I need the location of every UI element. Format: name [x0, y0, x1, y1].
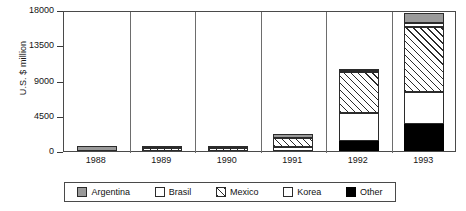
y-axis-tick-label: 13500 [0, 41, 54, 50]
bar-segment-argentina [404, 13, 444, 23]
stacked-bar [404, 13, 444, 151]
bar-segment-argentina [208, 146, 248, 148]
legend-label: Brasil [169, 187, 192, 197]
bar-segment-argentina [77, 146, 117, 151]
y-axis-title: U.S. $ million [18, 13, 28, 123]
legend-item-argentina[interactable]: Argentina [77, 187, 130, 197]
legend-swatch-icon [346, 187, 356, 197]
bar-segment-other [339, 141, 379, 151]
bar-segment-argentina [142, 146, 182, 148]
bar-segment-mexico [142, 148, 182, 151]
legend-swatch-icon [155, 187, 165, 197]
panel-separator [326, 12, 327, 153]
panel-separator [130, 12, 131, 153]
legend-label: Mexico [230, 187, 259, 197]
legend-swatch-icon [283, 187, 293, 197]
bar-segment-other [404, 124, 444, 151]
legend-label: Other [360, 187, 383, 197]
y-axis-tick-label: 18000 [0, 6, 54, 15]
legend-item-brasil[interactable]: Brasil [155, 187, 192, 197]
panel-separator [195, 12, 196, 153]
y-axis-tick [57, 152, 63, 153]
legend-label: Argentina [91, 187, 130, 197]
bar-segment-argentina [273, 134, 313, 138]
y-axis-tick-label: 4500 [0, 112, 54, 121]
chart-root: U.S. $ million 0450090001350018000 19881… [0, 0, 466, 211]
x-axis-tick-label: 1992 [325, 155, 391, 165]
bar-segment-korea [339, 113, 379, 141]
panel-separator [261, 12, 262, 153]
stacked-bar [273, 134, 313, 151]
legend-label: Korea [297, 187, 321, 197]
x-axis-tick-label: 1988 [63, 155, 129, 165]
stacked-bar [208, 147, 248, 151]
plot-area [63, 11, 456, 152]
bar-segment-argentina [339, 69, 379, 71]
legend-item-korea[interactable]: Korea [283, 187, 321, 197]
stacked-bar [142, 147, 182, 151]
stacked-bar [339, 69, 379, 151]
x-axis-tick-label: 1993 [390, 155, 456, 165]
x-axis-tick-label: 1990 [194, 155, 260, 165]
legend-item-other[interactable]: Other [346, 187, 383, 197]
bar-segment-mexico [208, 148, 248, 151]
y-axis-tick-label: 0 [0, 147, 54, 156]
y-axis-tick-label: 9000 [0, 77, 54, 86]
stacked-bar [77, 146, 117, 151]
x-axis-tick-label: 1989 [128, 155, 194, 165]
panel-separator [392, 12, 393, 153]
bar-segment-brasil [404, 23, 444, 27]
chart-legend: ArgentinaBrasilMexicoKoreaOther [64, 182, 396, 202]
bar-segment-korea [273, 147, 313, 151]
bar-segment-mexico [273, 138, 313, 147]
legend-swatch-icon [77, 187, 87, 197]
legend-swatch-icon [216, 187, 226, 197]
bar-segment-korea [404, 92, 444, 124]
bar-segment-mexico [404, 27, 444, 92]
bar-segment-mexico [339, 72, 379, 113]
x-axis-tick-label: 1991 [259, 155, 325, 165]
legend-item-mexico[interactable]: Mexico [216, 187, 259, 197]
